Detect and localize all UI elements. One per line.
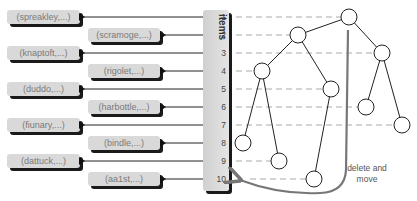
pointer-arrows [84, 17, 203, 179]
annotation-line-2: move [340, 174, 394, 185]
annotation-line-1: delete and [340, 163, 394, 174]
move-arrow [240, 30, 348, 193]
delete-and-move-annotation: delete and move [340, 163, 394, 185]
tree-nodes [235, 9, 410, 187]
tree-edges [243, 17, 402, 179]
